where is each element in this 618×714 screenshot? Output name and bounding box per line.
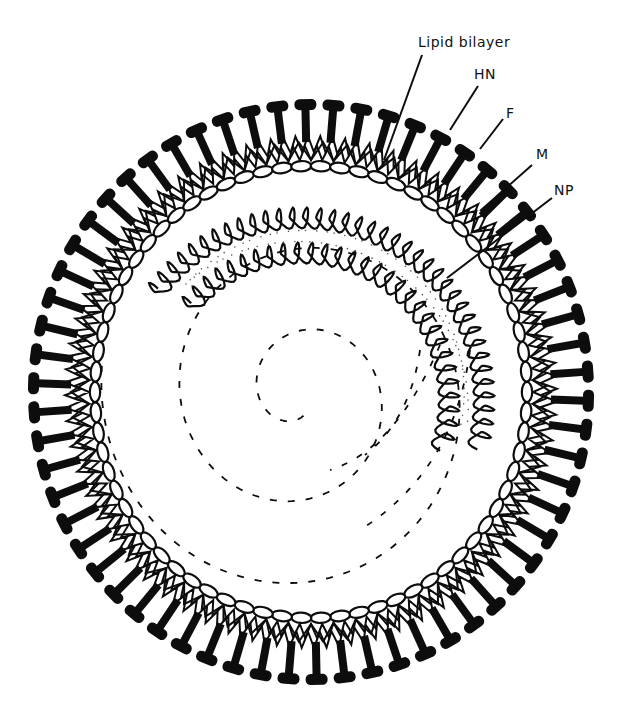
glycoprotein-spikes: [28, 99, 594, 685]
label-hn: HN: [474, 66, 496, 82]
rna-genome-spiral: [101, 248, 470, 583]
label-lipid-bilayer: Lipid bilayer: [418, 34, 510, 50]
label-f: F: [506, 105, 515, 121]
label-m: M: [536, 146, 549, 162]
m-protein-bead-layer: [90, 161, 532, 624]
nucleocapsid-np-coils: [149, 208, 494, 451]
virion-diagram: [0, 0, 618, 714]
label-np: NP: [554, 182, 574, 198]
